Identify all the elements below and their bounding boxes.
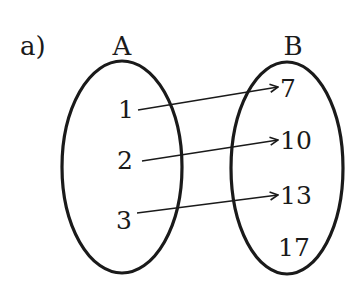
set-b-element: 10 <box>280 126 312 155</box>
mapping-arrow <box>138 87 278 110</box>
set-b-element: 7 <box>280 74 296 103</box>
mapping-arrow <box>142 140 278 161</box>
mapping-arrow <box>137 195 278 213</box>
set-a-element: 1 <box>118 95 134 124</box>
set-b-label: B <box>283 31 302 61</box>
part-label: a) <box>20 31 46 61</box>
set-b-element: 13 <box>280 181 312 210</box>
set-b-element: 17 <box>278 233 310 262</box>
set-a-label: A <box>112 31 133 61</box>
arrow-diagram: a) A B 1 2 3 7 10 13 17 <box>0 0 357 281</box>
set-a-element: 3 <box>116 206 132 235</box>
set-a-element: 2 <box>117 146 133 175</box>
